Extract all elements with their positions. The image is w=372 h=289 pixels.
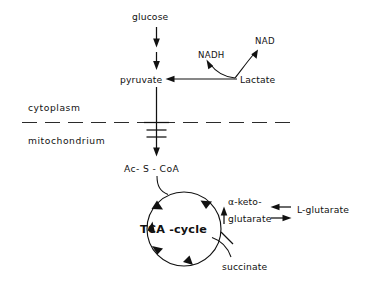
edge-acetyl-coa-into-cycle: [157, 176, 168, 195]
edge-alpha-ketoglutarate-to-l-glutarate: [271, 215, 292, 222]
succinate-block-bar: [221, 232, 233, 244]
tca-cycle-circle: TCA -cycle: [140, 192, 221, 266]
node-label-alpha-keto-line2: glutarate: [228, 213, 272, 224]
cycle-label: TCA -cycle: [140, 223, 207, 236]
node-label-pyruvate: pyruvate: [120, 74, 163, 85]
edge-glucose-to-pyruvate-step-2: [153, 52, 160, 70]
edge-l-glutarate-to-alpha-ketoglutarate: [271, 204, 292, 211]
cycle-arrowhead-upper-left: [152, 201, 164, 210]
node-label-lactate: Lactate: [240, 74, 276, 85]
compartment-label-cytoplasm: cytoplasm: [28, 102, 80, 113]
node-label-alpha-keto-line1: α-keto-: [228, 196, 262, 207]
edge-lactate-to-nadh: [207, 60, 236, 79]
node-label-l-glutarate: L-glutarate: [297, 204, 349, 215]
node-label-acetyl-coa: Ac- S - CoA: [124, 163, 179, 174]
cycle-arrowhead-top-right: [201, 201, 213, 210]
edge-cycle-to-alpha-ketoglutarate: [221, 207, 228, 225]
node-label-glucose: glucose: [132, 11, 169, 22]
pathway-diagram: glucose pyruvate Lactate NADH NAD: [0, 0, 372, 289]
edge-pyruvate-across-membrane: [144, 87, 169, 157]
edge-glucose-to-pyruvate-step-1: [153, 27, 160, 48]
node-label-nadh: NADH: [198, 50, 225, 60]
cycle-arrowhead-bottom: [183, 256, 193, 266]
compartment-label-mitochondrium: mitochondrium: [28, 135, 105, 146]
node-label-succinate: succinate: [222, 261, 268, 272]
node-label-nad: NAD: [255, 36, 275, 46]
edge-succinate-branch-blocked: [212, 232, 233, 257]
pathway-svg: glucose pyruvate Lactate NADH NAD: [0, 0, 372, 289]
